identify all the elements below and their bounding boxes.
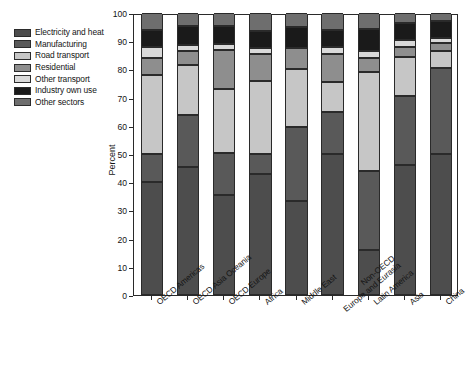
y-axis-tick-label: 80: [117, 66, 127, 75]
legend-swatch-icon: [14, 52, 31, 60]
legend-swatch-icon: [14, 87, 31, 95]
bar-segment[interactable]: [250, 81, 270, 154]
bar-column[interactable]: [141, 15, 163, 295]
bar-segment[interactable]: [178, 65, 198, 114]
legend-label: Residential: [35, 63, 75, 72]
bar-segment[interactable]: [250, 154, 270, 174]
bar-segment[interactable]: [142, 47, 162, 58]
bar-segment[interactable]: [286, 48, 306, 69]
bar-segment[interactable]: [431, 43, 451, 51]
bar-segment[interactable]: [359, 72, 379, 171]
bar-segment[interactable]: [142, 182, 162, 295]
legend-swatch-icon: [14, 29, 31, 37]
bar-segment[interactable]: [431, 68, 451, 154]
bar-segment[interactable]: [322, 82, 342, 112]
bar-segment[interactable]: [214, 153, 234, 195]
y-axis-tick-label: 20: [117, 235, 127, 244]
bar-segment[interactable]: [395, 23, 415, 40]
bar-segment[interactable]: [286, 127, 306, 200]
bar-column[interactable]: [213, 15, 235, 295]
x-axis-tick-mark: [332, 296, 333, 300]
bar-segment[interactable]: [214, 89, 234, 152]
legend-swatch-icon: [14, 75, 31, 83]
figure: Electricity and heatManufacturingRoad tr…: [0, 0, 470, 372]
bar-segment[interactable]: [142, 75, 162, 154]
bar-segment[interactable]: [214, 13, 234, 26]
legend-swatch-icon: [14, 64, 31, 72]
bar-segment[interactable]: [214, 44, 234, 50]
bar-segment[interactable]: [142, 154, 162, 182]
y-axis-tick-label: 30: [117, 207, 127, 216]
bar-column[interactable]: [177, 15, 199, 295]
legend-swatch-icon: [14, 40, 31, 48]
legend-label: Electricity and heat: [35, 28, 104, 37]
bar-segment[interactable]: [431, 51, 451, 68]
bar-segment[interactable]: [286, 13, 306, 27]
bar-segment[interactable]: [286, 27, 306, 48]
bar-segment[interactable]: [250, 48, 270, 54]
bar-segment[interactable]: [359, 13, 379, 29]
bar-segment[interactable]: [395, 47, 415, 57]
bar-column[interactable]: [249, 15, 271, 295]
y-axis-tick-label: 70: [117, 94, 127, 103]
x-axis-tick-mark: [296, 296, 297, 300]
legend-swatch-icon: [14, 98, 31, 106]
bar-segment[interactable]: [395, 40, 415, 47]
x-axis-tick-mark: [404, 296, 405, 300]
bar-segment[interactable]: [250, 31, 270, 48]
bar-segment[interactable]: [395, 57, 415, 96]
bar-segment[interactable]: [286, 201, 306, 295]
legend-label: Road transport: [35, 51, 89, 60]
bar-segment[interactable]: [431, 38, 451, 42]
bar-column[interactable]: [321, 15, 343, 295]
bar-segment[interactable]: [250, 54, 270, 81]
bar-column[interactable]: [358, 15, 380, 295]
bar-segment[interactable]: [142, 30, 162, 47]
bar-segment[interactable]: [431, 21, 451, 38]
bar-segment[interactable]: [359, 171, 379, 250]
bar-segment[interactable]: [322, 54, 342, 82]
x-axis: OECD AmericasOECD Asia OceaniaOECD Europ…: [0, 296, 470, 372]
bar-segment[interactable]: [359, 58, 379, 72]
plot-area: [133, 14, 458, 296]
bar-segment[interactable]: [178, 45, 198, 51]
x-axis-tick-mark: [151, 296, 152, 300]
bar-segment[interactable]: [395, 96, 415, 165]
bar-segment[interactable]: [142, 58, 162, 75]
legend-label: Industry own use: [35, 86, 97, 95]
bar-column[interactable]: [394, 15, 416, 295]
bar-segment[interactable]: [322, 112, 342, 154]
y-axis-tick-label: 100: [113, 10, 127, 19]
bar-segment[interactable]: [178, 51, 198, 65]
bar-segment[interactable]: [395, 13, 415, 23]
bar-segment[interactable]: [322, 30, 342, 47]
y-axis-title: Percent: [107, 130, 117, 190]
legend-label: Manufacturing: [35, 40, 87, 49]
bar-segment[interactable]: [142, 13, 162, 30]
bar-segment[interactable]: [250, 13, 270, 31]
bar-segment[interactable]: [214, 26, 234, 44]
bar-segment[interactable]: [431, 154, 451, 295]
bar-segment[interactable]: [431, 13, 451, 21]
bar-segment[interactable]: [359, 51, 379, 58]
x-axis-tick-mark: [368, 296, 369, 300]
bar-segment[interactable]: [214, 50, 234, 89]
y-axis-tick-label: 40: [117, 179, 127, 188]
x-axis-tick-mark: [223, 296, 224, 300]
bar-segment[interactable]: [322, 47, 342, 54]
bar-column[interactable]: [430, 15, 452, 295]
x-axis-tick-mark: [259, 296, 260, 300]
bar-column[interactable]: [285, 15, 307, 295]
bar-segment[interactable]: [178, 13, 198, 26]
bar-segment[interactable]: [359, 29, 379, 52]
x-axis-tick-mark: [440, 296, 441, 300]
bar-segment[interactable]: [286, 69, 306, 127]
bar-segment[interactable]: [178, 115, 198, 167]
y-axis-tick-label: 90: [117, 38, 127, 47]
legend-label: Other transport: [35, 75, 90, 84]
y-axis-tick-label: 10: [117, 264, 127, 273]
legend-label: Other sectors: [35, 98, 84, 107]
y-axis-tick-label: 50: [117, 151, 127, 160]
bar-segment[interactable]: [322, 13, 342, 30]
bar-segment[interactable]: [178, 26, 198, 46]
